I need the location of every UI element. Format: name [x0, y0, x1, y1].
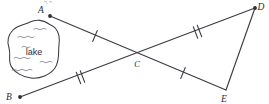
vertex-dot-b: [18, 95, 22, 99]
point-label-c: C: [134, 59, 140, 69]
point-label-a: A: [37, 5, 44, 15]
point-label-e: E: [220, 94, 227, 104]
point-label-d: D: [257, 2, 265, 12]
diagram-canvas: lake A B: [0, 0, 269, 104]
geometry-figure: lake A B: [0, 0, 269, 104]
tick-segment-cd-1: [193, 27, 197, 38]
vertex-dot-a: [48, 14, 52, 18]
tick-mark-group: [76, 25, 201, 83]
segment-a-to-e: [50, 16, 226, 90]
tick-segment-cd-2: [197, 25, 201, 36]
scan-artifact-specks: [44, 1, 52, 4]
point-label-b: B: [6, 92, 12, 102]
lake-label: lake: [26, 47, 43, 57]
lake-shape: lake: [8, 20, 59, 78]
segment-d-to-e: [226, 8, 255, 90]
vertex-dot-d: [253, 6, 257, 10]
